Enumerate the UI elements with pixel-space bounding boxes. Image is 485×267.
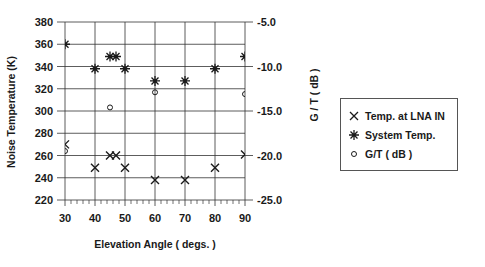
y-tick-label: 360 (35, 38, 53, 50)
legend: Temp. at LNA IN System Temp. G/T ( dB ) (340, 98, 458, 171)
y2-tick-label: -15.0 (257, 105, 282, 117)
y2-axis-title: G / T ( dB ) (308, 68, 320, 121)
legend-item-system-temp: System Temp. (349, 127, 435, 143)
grid-lines (57, 22, 245, 206)
y-tick-label: 280 (35, 127, 53, 139)
y-tick-label: 260 (35, 150, 53, 162)
y2-tick-label: -10.0 (257, 61, 282, 73)
x-tick-label: 60 (149, 212, 161, 224)
y-tick-label: 340 (35, 61, 53, 73)
y-tick-label: 320 (35, 83, 53, 95)
circle-marker (108, 105, 113, 110)
x-tick-label: 30 (59, 212, 71, 224)
asterisk-marker (150, 76, 160, 86)
x-tick-label: 70 (179, 212, 191, 224)
y2-tick-label: -25.0 (257, 194, 282, 206)
asterisk-marker (120, 64, 130, 74)
x-tick-label: 40 (89, 212, 101, 224)
y2-tick-label: -5.0 (257, 16, 276, 28)
legend-label: G/T ( dB ) (365, 148, 412, 160)
y-tick-label: 240 (35, 172, 53, 184)
legend-label: System Temp. (365, 129, 435, 141)
asterisk-marker (210, 64, 220, 74)
legend-item-gt: G/T ( dB ) (349, 146, 412, 162)
y-axis-title: Noise Temperature (K) (5, 56, 17, 168)
asterisk-marker (90, 64, 100, 74)
y-tick-label: 380 (35, 16, 53, 28)
y-tick-label: 220 (35, 194, 53, 206)
asterisk-marker (180, 76, 190, 86)
asterisk-marker-icon (349, 130, 359, 140)
x-marker-icon (349, 111, 359, 121)
legend-label: Temp. at LNA IN (365, 110, 445, 122)
circle-marker-icon (349, 149, 359, 159)
legend-item-lna-temp: Temp. at LNA IN (349, 108, 445, 124)
x-tick-label: 90 (239, 212, 251, 224)
asterisk-marker (111, 51, 121, 61)
x-axis-title: Elevation Angle ( degs. ) (94, 238, 216, 250)
x-tick-label: 50 (119, 212, 131, 224)
y-tick-label: 300 (35, 105, 53, 117)
asterisk-marker (240, 51, 250, 61)
x-tick-label: 80 (209, 212, 221, 224)
y2-tick-label: -20.0 (257, 150, 282, 162)
